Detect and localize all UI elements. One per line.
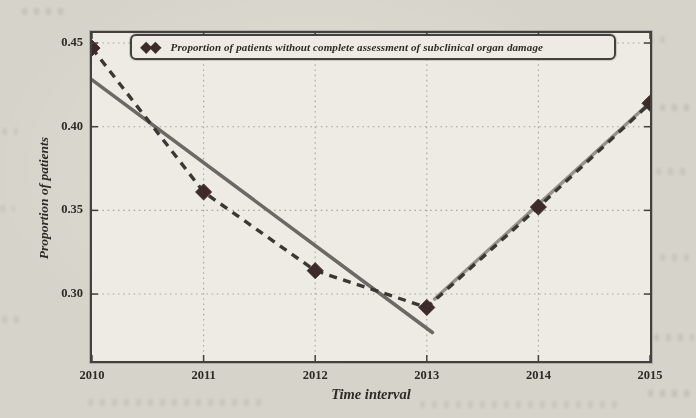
plot-area: ◆◆ Proportion of patients without comple…: [90, 31, 652, 363]
bleed-through-artifact: [648, 390, 692, 397]
bleed-through-artifact: [660, 104, 692, 111]
trend-line-increasing: [435, 102, 650, 299]
x-tick-label: 2015: [627, 368, 673, 383]
legend-box: ◆◆ Proportion of patients without comple…: [130, 34, 616, 60]
chart-canvas: [92, 33, 650, 361]
bleed-through-artifact: [0, 205, 15, 212]
y-axis-title: Proportion of patients: [36, 118, 52, 278]
legend-label: Proportion of patients without complete …: [171, 41, 543, 53]
x-tick-label: 2013: [404, 368, 450, 383]
bleed-through-artifact: [656, 168, 692, 175]
x-tick-label: 2011: [181, 368, 227, 383]
bleed-through-artifact: [654, 334, 694, 341]
bleed-through-artifact: [2, 128, 18, 135]
scanned-page: ◆◆ Proportion of patients without comple…: [0, 0, 696, 418]
y-tick-label: 0.30: [41, 286, 83, 301]
y-tick-label: 0.45: [41, 35, 83, 50]
bleed-through-artifact: [2, 316, 19, 323]
legend-diamond-marker-icon: ◆◆: [140, 39, 162, 55]
bleed-through-artifact: [660, 254, 692, 261]
trend-line-decreasing: [92, 80, 432, 333]
bleed-through-artifact: [22, 8, 66, 15]
data-point-diamond-marker: [419, 299, 435, 315]
x-axis-title: Time interval: [90, 386, 652, 403]
x-tick-label: 2010: [69, 368, 115, 383]
x-tick-label: 2012: [292, 368, 338, 383]
x-tick-label: 2014: [515, 368, 561, 383]
